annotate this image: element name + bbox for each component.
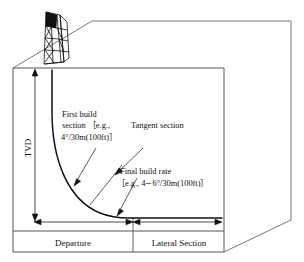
label-final-build-rate: Final build rate ［e.g., 4∼6°/30m(100ft)］ [117, 167, 208, 188]
tangent-line1: Tangent section [131, 121, 184, 130]
first-build-line2: section ［e.g., [62, 121, 110, 130]
well-trajectory-figure: First build section ［e.g., 4°/30m(100ft)… [0, 0, 304, 262]
tvd-arrow-top [32, 69, 38, 76]
lateral-arrow-left [133, 219, 140, 225]
diagram-canvas: First build section ［e.g., 4°/30m(100ft)… [0, 0, 304, 262]
leader-first-build [76, 148, 96, 182]
inner-box-outline [13, 68, 224, 252]
tvd-arrow-bottom [32, 214, 38, 221]
lateral-dimension [133, 219, 222, 225]
label-tangent-section: Tangent section [131, 121, 184, 130]
well-trajectory-line [52, 70, 222, 218]
tvd-dimension [32, 69, 38, 221]
departure-arrow-right [126, 219, 133, 225]
leader-first-build-arrow [74, 179, 81, 186]
leader-final-build-arrow [117, 209, 124, 216]
lateral-section-caption: Lateral Section [152, 238, 207, 248]
drilling-derrick-icon [44, 12, 69, 64]
derrick-brace-side-3 [61, 51, 69, 52]
first-build-line1: First build [62, 110, 97, 119]
departure-dimension [34, 219, 133, 225]
inner-box [13, 68, 224, 252]
final-build-line2: ［e.g., 4∼6°/30m(100ft)］ [117, 179, 208, 188]
first-build-line3: 4°/30m(100ft)］ [61, 133, 117, 142]
frame-diagonal-bottom-right [224, 220, 291, 252]
lateral-arrow-right [215, 219, 222, 225]
final-build-line1: Final build rate [120, 167, 171, 176]
derrick-side-face [60, 15, 69, 62]
well-path [52, 70, 222, 218]
departure-caption: Departure [55, 238, 91, 248]
tvd-axis-label: TVD [23, 138, 33, 157]
label-first-build-section: First build section ［e.g., 4°/30m(100ft)… [61, 110, 117, 142]
